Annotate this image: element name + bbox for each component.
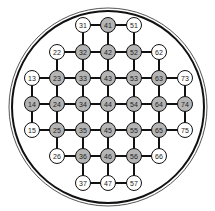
node-label: 52 <box>130 49 138 56</box>
node-label: 73 <box>181 75 189 82</box>
node-64: 64 <box>152 97 167 112</box>
grid-diagram: 3141512232425262132333435363731424344454… <box>0 0 215 211</box>
node-63: 63 <box>152 71 167 86</box>
node-57: 57 <box>127 176 142 191</box>
node-label: 75 <box>181 127 189 134</box>
node-label: 57 <box>130 180 138 187</box>
node-31: 31 <box>76 18 91 33</box>
node-54: 54 <box>127 97 142 112</box>
node-label: 24 <box>53 101 61 108</box>
node-label: 25 <box>53 127 61 134</box>
node-label: 43 <box>104 75 112 82</box>
node-45: 45 <box>101 123 116 138</box>
node-65: 65 <box>152 123 167 138</box>
node-label: 32 <box>79 49 87 56</box>
node-label: 34 <box>79 101 87 108</box>
node-label: 44 <box>104 101 112 108</box>
node-25: 25 <box>50 123 65 138</box>
node-label: 36 <box>79 153 87 160</box>
node-74: 74 <box>178 97 193 112</box>
node-label: 56 <box>130 153 138 160</box>
node-label: 66 <box>155 153 163 160</box>
node-13: 13 <box>25 71 40 86</box>
node-label: 37 <box>79 180 87 187</box>
node-73: 73 <box>178 71 193 86</box>
node-label: 62 <box>155 49 163 56</box>
node-33: 33 <box>76 71 91 86</box>
node-label: 63 <box>155 75 163 82</box>
node-42: 42 <box>101 45 116 60</box>
node-label: 31 <box>79 22 87 29</box>
node-52: 52 <box>127 45 142 60</box>
node-15: 15 <box>25 123 40 138</box>
node-label: 64 <box>155 101 163 108</box>
node-56: 56 <box>127 149 142 164</box>
node-label: 15 <box>28 127 36 134</box>
node-32: 32 <box>76 45 91 60</box>
node-23: 23 <box>50 71 65 86</box>
node-label: 26 <box>53 153 61 160</box>
node-label: 35 <box>79 127 87 134</box>
node-36: 36 <box>76 149 91 164</box>
node-label: 13 <box>28 75 36 82</box>
node-label: 65 <box>155 127 163 134</box>
node-47: 47 <box>101 176 116 191</box>
node-51: 51 <box>127 18 142 33</box>
node-55: 55 <box>127 123 142 138</box>
node-43: 43 <box>101 71 116 86</box>
node-24: 24 <box>50 97 65 112</box>
node-label: 74 <box>181 101 189 108</box>
node-label: 55 <box>130 127 138 134</box>
node-26: 26 <box>50 149 65 164</box>
node-62: 62 <box>152 45 167 60</box>
node-label: 46 <box>104 153 112 160</box>
node-53: 53 <box>127 71 142 86</box>
node-46: 46 <box>101 149 116 164</box>
node-44: 44 <box>101 97 116 112</box>
node-37: 37 <box>76 176 91 191</box>
node-label: 54 <box>130 101 138 108</box>
node-label: 42 <box>104 49 112 56</box>
node-label: 45 <box>104 127 112 134</box>
node-66: 66 <box>152 149 167 164</box>
node-label: 51 <box>130 22 138 29</box>
node-22: 22 <box>50 45 65 60</box>
node-label: 22 <box>53 49 61 56</box>
node-label: 33 <box>79 75 87 82</box>
node-41: 41 <box>101 18 116 33</box>
node-label: 53 <box>130 75 138 82</box>
node-75: 75 <box>178 123 193 138</box>
node-14: 14 <box>25 97 40 112</box>
node-label: 47 <box>104 180 112 187</box>
node-label: 14 <box>28 101 36 108</box>
node-label: 41 <box>104 22 112 29</box>
node-label: 23 <box>53 75 61 82</box>
node-34: 34 <box>76 97 91 112</box>
node-35: 35 <box>76 123 91 138</box>
